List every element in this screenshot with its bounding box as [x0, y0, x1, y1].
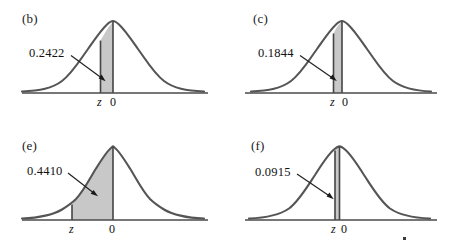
- panel-b-caption: (b): [22, 11, 38, 27]
- panel-c-leader-arrow: [300, 56, 337, 82]
- panel-f-zero-tick-label: 0: [341, 222, 347, 237]
- panel-f: (f) 0.0915 z 0: [225, 125, 449, 250]
- panel-e-z-tick-label: z: [69, 222, 74, 237]
- panel-c-area-value: 0.1844: [258, 46, 294, 61]
- panel-e-zero-tick-label: 0: [109, 222, 115, 237]
- panel-e-area-value: 0.4410: [27, 164, 63, 179]
- panel-e-caption: (e): [22, 138, 37, 154]
- normal-curve-figure: (b) 0.2422 z 0 (c) 0.1844 z 0: [0, 0, 449, 250]
- panel-c-shaded-area: [334, 22, 343, 94]
- panel-e-shaded-area: [72, 146, 113, 220]
- panel-b-zero-tick-label: 0: [110, 95, 116, 110]
- panel-b-area-value: 0.2422: [29, 46, 65, 61]
- panel-c-caption: (c): [253, 11, 268, 27]
- panel-f-caption: (f): [251, 138, 265, 154]
- panel-c-zero-tick-label: 0: [342, 95, 348, 110]
- scan-artifact-dot: [403, 237, 406, 240]
- panel-c-z-tick-label: z: [330, 95, 335, 110]
- panel-b-shaded-area: [101, 22, 114, 94]
- panel-f-leader-arrow: [297, 174, 334, 199]
- panel-f-z-tick-label: z: [331, 222, 336, 237]
- panel-b-z-tick-label: z: [97, 95, 102, 110]
- panel-f-area-value: 0.0915: [255, 165, 291, 180]
- panel-e: (e) 0.4410 z 0: [0, 125, 224, 250]
- panel-c: (c) 0.1844 z 0: [225, 0, 449, 125]
- panel-b: (b) 0.2422 z 0: [0, 0, 224, 125]
